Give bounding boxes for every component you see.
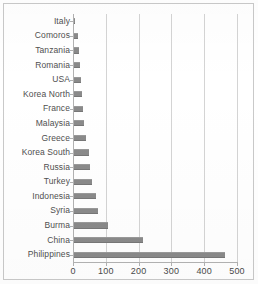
y-tick bbox=[70, 226, 73, 227]
bar bbox=[73, 193, 96, 199]
bar bbox=[73, 135, 86, 141]
y-axis-line bbox=[73, 14, 74, 263]
y-tick bbox=[70, 240, 73, 241]
y-tick bbox=[70, 80, 73, 81]
y-axis-labels: ItalyComorosTanzaniaRomaniaUSAKorea Nort… bbox=[0, 14, 70, 262]
category-label: Malaysia bbox=[2, 118, 70, 128]
category-label: Syria bbox=[2, 205, 70, 215]
category-label: Turkey bbox=[2, 176, 70, 186]
bar bbox=[73, 252, 225, 258]
category-label: Korea North bbox=[2, 89, 70, 99]
category-label: Philippines bbox=[2, 249, 70, 259]
bar bbox=[73, 179, 92, 185]
bar bbox=[73, 149, 89, 155]
category-label: Greece bbox=[2, 133, 70, 143]
y-tick bbox=[70, 123, 73, 124]
category-label: Italy bbox=[2, 16, 70, 26]
bar bbox=[73, 208, 98, 214]
category-label: Indonesia bbox=[2, 191, 70, 201]
y-tick bbox=[70, 65, 73, 66]
y-tick bbox=[70, 255, 73, 256]
bar bbox=[73, 237, 143, 243]
y-tick bbox=[70, 182, 73, 183]
category-label: Comoros bbox=[2, 30, 70, 40]
y-tick bbox=[70, 211, 73, 212]
plot-area bbox=[73, 14, 237, 262]
x-axis-line bbox=[73, 262, 238, 263]
category-label: Romania bbox=[2, 60, 70, 70]
category-label: China bbox=[2, 235, 70, 245]
category-label: France bbox=[2, 103, 70, 113]
bar bbox=[73, 222, 108, 228]
x-tick-label-500: 500 bbox=[217, 266, 257, 276]
bar bbox=[73, 77, 81, 83]
category-label: Russia bbox=[2, 162, 70, 172]
y-tick bbox=[70, 36, 73, 37]
y-tick bbox=[70, 196, 73, 197]
category-label: Korea South bbox=[2, 147, 70, 157]
bar bbox=[73, 120, 84, 126]
bar-chart: 0100200300400500 ItalyComorosTanzaniaRom… bbox=[0, 0, 258, 284]
category-label: USA bbox=[2, 74, 70, 84]
bar bbox=[73, 106, 83, 112]
category-label: Burma bbox=[2, 220, 70, 230]
y-tick bbox=[70, 109, 73, 110]
chart-figure: 0100200300400500 ItalyComorosTanzaniaRom… bbox=[0, 0, 258, 284]
gridline-500 bbox=[237, 14, 238, 262]
y-tick bbox=[70, 50, 73, 51]
y-tick bbox=[70, 167, 73, 168]
y-tick bbox=[70, 94, 73, 95]
y-tick bbox=[70, 138, 73, 139]
bar bbox=[73, 164, 90, 170]
bar bbox=[73, 91, 82, 97]
category-label: Tanzania bbox=[2, 45, 70, 55]
y-tick bbox=[70, 21, 73, 22]
y-tick bbox=[70, 153, 73, 154]
